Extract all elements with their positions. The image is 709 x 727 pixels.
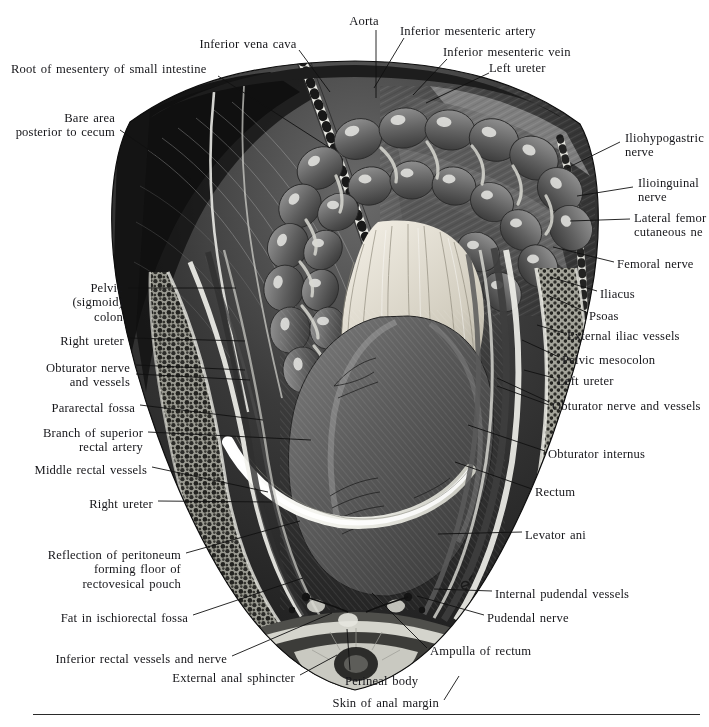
- label-line: Levator ani: [525, 528, 586, 542]
- label-line: Right ureter: [60, 334, 124, 348]
- label-line: Inferior mesenteric vein: [443, 45, 571, 59]
- label-obturator-internus: Obturator internus: [548, 447, 645, 461]
- label-aorta: Aorta: [349, 14, 379, 28]
- label-inferior-rectal-vessels-nerve: Inferior rectal vessels and nerve: [55, 652, 227, 666]
- label-left-ureter-top: Left ureter: [489, 61, 546, 75]
- label-line: nerve: [625, 145, 704, 159]
- label-line: Inferior rectal vessels and nerve: [55, 652, 227, 666]
- bottom-rule: [33, 714, 700, 715]
- label-line: posterior to cecum: [16, 125, 115, 139]
- label-obturator-nerve-vessels-left: Obturator nerveand vessels: [46, 361, 130, 390]
- label-line: Lateral femor: [634, 211, 706, 225]
- label-external-iliac-vessels: External iliac vessels: [567, 329, 680, 343]
- label-line: Internal pudendal vessels: [495, 587, 629, 601]
- label-line: and vessels: [46, 375, 130, 389]
- label-psoas: Psoas: [589, 309, 619, 323]
- label-ampulla-of-rectum: Ampulla of rectum: [430, 644, 531, 658]
- label-bare-area-cecum: Bare areaposterior to cecum: [16, 111, 115, 140]
- label-skin-of-anal-margin: Skin of anal margin: [333, 696, 439, 710]
- label-line: Reflection of peritoneum: [48, 548, 181, 562]
- label-line: Pelvic: [72, 281, 123, 295]
- label-inferior-mesenteric-vein: Inferior mesenteric vein: [443, 45, 571, 59]
- label-line: Inferior vena cava: [199, 37, 296, 51]
- label-middle-rectal-vessels: Middle rectal vessels: [35, 463, 148, 477]
- label-inferior-mesenteric-artery: Inferior mesenteric artery: [400, 24, 536, 38]
- label-levator-ani: Levator ani: [525, 528, 586, 542]
- label-pararectal-fossa: Pararectal fossa: [52, 401, 135, 415]
- label-line: External anal sphincter: [172, 671, 295, 685]
- label-line: colon: [72, 310, 123, 324]
- label-right-ureter-upper: Right ureter: [60, 334, 124, 348]
- label-line: Skin of anal margin: [333, 696, 439, 710]
- label-line: Iliohypogastric: [625, 131, 704, 145]
- label-iliacus: Iliacus: [600, 287, 635, 301]
- label-line: Left ureter: [557, 374, 614, 388]
- label-line: cutaneous ne: [634, 225, 706, 239]
- label-left-ureter-mid: Left ureter: [557, 374, 614, 388]
- label-line: Perineal body: [345, 674, 418, 688]
- label-root-of-mesentery: Root of mesentery of small intestine: [11, 62, 206, 76]
- label-line: Obturator nerve: [46, 361, 130, 375]
- label-internal-pudendal-vessels: Internal pudendal vessels: [495, 587, 629, 601]
- label-line: Root of mesentery of small intestine: [11, 62, 206, 76]
- label-line: rectovesical pouch: [48, 577, 181, 591]
- label-line: Ilioinguinal: [638, 176, 699, 190]
- label-line: Left ureter: [489, 61, 546, 75]
- label-inferior-vena-cava: Inferior vena cava: [199, 37, 296, 51]
- label-obturator-nerve-vessels-right: Obturator nerve and vessels: [552, 399, 701, 413]
- label-line: External iliac vessels: [567, 329, 680, 343]
- label-pelvic-mesocolon: Pelvic mesocolon: [562, 353, 655, 367]
- label-ilioinguinal-nerve: Ilioinguinalnerve: [638, 176, 699, 205]
- label-iliohypogastric-nerve: Iliohypogastricnerve: [625, 131, 704, 160]
- label-line: Middle rectal vessels: [35, 463, 148, 477]
- label-rectum: Rectum: [535, 485, 575, 499]
- label-line: Aorta: [349, 14, 379, 28]
- label-pelvic-sigmoid-colon: Pelvic(sigmoid)colon: [72, 281, 123, 324]
- label-reflection-of-peritoneum: Reflection of peritoneumforming floor of…: [48, 548, 181, 591]
- label-line: Inferior mesenteric artery: [400, 24, 536, 38]
- label-line: Rectum: [535, 485, 575, 499]
- label-line: Iliacus: [600, 287, 635, 301]
- label-line: Obturator internus: [548, 447, 645, 461]
- label-pudendal-nerve: Pudendal nerve: [487, 611, 569, 625]
- label-right-ureter-lower: Right ureter: [89, 497, 153, 511]
- label-line: forming floor of: [48, 562, 181, 576]
- label-line: Femoral nerve: [617, 257, 694, 271]
- label-line: Pararectal fossa: [52, 401, 135, 415]
- label-external-anal-sphincter: External anal sphincter: [172, 671, 295, 685]
- label-line: Right ureter: [89, 497, 153, 511]
- label-femoral-nerve: Femoral nerve: [617, 257, 694, 271]
- label-perineal-body: Perineal body: [345, 674, 418, 688]
- label-line: Bare area: [16, 111, 115, 125]
- label-line: Ampulla of rectum: [430, 644, 531, 658]
- label-line: Obturator nerve and vessels: [552, 399, 701, 413]
- label-line: Pudendal nerve: [487, 611, 569, 625]
- label-lateral-femoral-cutaneous-nerve: Lateral femorcutaneous ne: [634, 211, 706, 240]
- label-line: rectal artery: [43, 440, 143, 454]
- label-line: nerve: [638, 190, 699, 204]
- label-line: Branch of superior: [43, 426, 143, 440]
- label-line: Pelvic mesocolon: [562, 353, 655, 367]
- label-line: Psoas: [589, 309, 619, 323]
- label-line: (sigmoid): [72, 295, 123, 309]
- label-branch-superior-rectal-artery: Branch of superiorrectal artery: [43, 426, 143, 455]
- label-line: Fat in ischiorectal fossa: [61, 611, 188, 625]
- anatomy-plate: AortaInferior vena cavaInferior mesenter…: [0, 0, 709, 727]
- label-fat-in-ischiorectal-fossa: Fat in ischiorectal fossa: [61, 611, 188, 625]
